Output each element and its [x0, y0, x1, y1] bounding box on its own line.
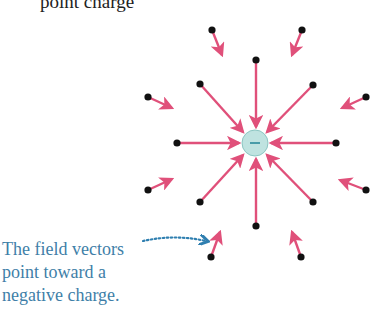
field-vector-arrow: [292, 232, 301, 257]
caption: The field vectors point toward a negativ…: [2, 238, 124, 307]
field-point-dot: [207, 253, 214, 260]
caption-pointer-arrow: [143, 238, 206, 242]
field-point-dot: [144, 93, 151, 100]
field-vector-arrow: [148, 179, 172, 190]
field-point-dot: [362, 186, 369, 193]
field-vector-arrow: [148, 97, 172, 108]
field-point-dot: [173, 139, 180, 146]
negative-point-charge: [242, 130, 268, 156]
field-point-dot: [297, 253, 304, 260]
field-point-dot: [252, 56, 259, 63]
field-point-dot: [309, 81, 316, 88]
field-point-dot: [208, 26, 215, 33]
field-point-dot: [298, 26, 305, 33]
field-vector-arrow: [200, 84, 243, 132]
caption-line: negative charge.: [2, 284, 124, 307]
field-vector-arrow: [342, 97, 366, 108]
field-point-dot: [332, 139, 339, 146]
field-point-dot: [309, 198, 316, 205]
field-vector-arrow: [292, 30, 302, 55]
field-vector-arrow: [212, 30, 222, 55]
field-point-dot: [144, 186, 151, 193]
caption-line: point toward a: [2, 261, 124, 284]
field-vector-arrow: [267, 85, 313, 132]
field-vector-arrow: [340, 180, 366, 190]
field-point-dot: [252, 222, 259, 229]
field-point-dot: [196, 80, 203, 87]
field-point-dot: [362, 93, 369, 100]
field-vector-arrow: [200, 155, 243, 202]
field-vector-arrow: [267, 155, 313, 202]
field-point-dot: [196, 198, 203, 205]
caption-line: The field vectors: [2, 238, 124, 261]
field-vector-arrow: [211, 232, 220, 257]
